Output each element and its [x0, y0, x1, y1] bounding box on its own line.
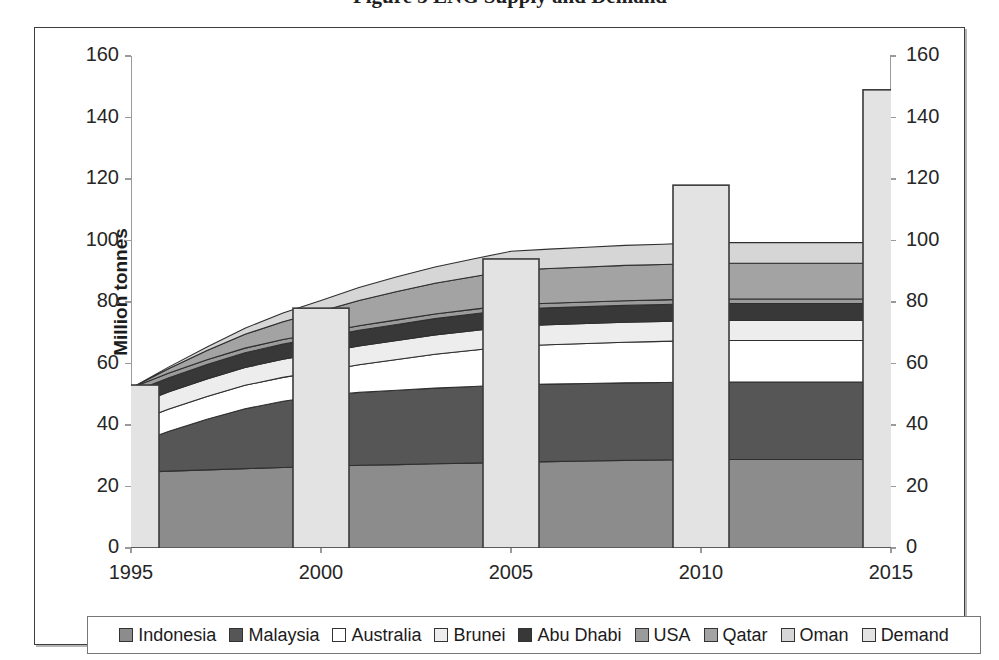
y-tick-label-right-100: 100 — [906, 228, 939, 251]
legend-swatch-icon-indonesia — [119, 628, 133, 642]
legend-label: Abu Dhabi — [537, 626, 621, 644]
y-tick-label-left-0: 0 — [108, 535, 119, 558]
legend-label: Qatar — [723, 626, 768, 644]
plot-area: Million tonnes 020406080100120140160 020… — [131, 56, 891, 548]
legend-label: Demand — [881, 626, 949, 644]
y-tick-label-left-80: 80 — [97, 289, 119, 312]
legend-label: USA — [654, 626, 691, 644]
legend-swatch-icon-abu-dhabi — [518, 628, 532, 642]
x-tick-label-2000: 2000 — [299, 561, 344, 584]
y-tick-label-left-60: 60 — [97, 351, 119, 374]
y-tick-label-right-120: 120 — [906, 166, 939, 189]
legend-label: Brunei — [453, 626, 505, 644]
demand-bar-2010 — [673, 185, 729, 548]
legend-swatch-icon-malaysia — [229, 628, 243, 642]
legend-item-usa: USA — [635, 626, 691, 644]
legend-item-qatar: Qatar — [704, 626, 768, 644]
legend-item-oman: Oman — [781, 626, 849, 644]
legend-label: Australia — [351, 626, 421, 644]
legend-swatch-icon-oman — [781, 628, 795, 642]
y-tick-label-right-20: 20 — [906, 474, 928, 497]
y-tick-label-left-140: 140 — [86, 105, 119, 128]
y-tick-label-right-40: 40 — [906, 412, 928, 435]
x-tick-label-2010: 2010 — [679, 561, 724, 584]
demand-bar-2015 — [863, 90, 891, 548]
y-tick-label-left-100: 100 — [86, 228, 119, 251]
legend-swatch-icon-australia — [332, 628, 346, 642]
y-tick-label-left-120: 120 — [86, 166, 119, 189]
figure-title: Figure 3 LNG Supply and Demand — [190, 0, 830, 9]
y-tick-label-right-160: 160 — [906, 43, 939, 66]
chart-legend: IndonesiaMalaysiaAustraliaBruneiAbu Dhab… — [87, 616, 981, 654]
chart-figure: Figure 3 LNG Supply and Demand Million t… — [0, 0, 999, 660]
y-tick-label-right-80: 80 — [906, 289, 928, 312]
y-tick-label-right-140: 140 — [906, 105, 939, 128]
y-tick-label-right-60: 60 — [906, 351, 928, 374]
demand-bar-2000 — [293, 308, 349, 548]
legend-item-australia: Australia — [332, 626, 421, 644]
x-tick-label-2015: 2015 — [869, 561, 914, 584]
legend-swatch-icon-qatar — [704, 628, 718, 642]
legend-item-brunei: Brunei — [434, 626, 505, 644]
x-tick-label-1995: 1995 — [109, 561, 154, 584]
legend-swatch-icon-demand — [862, 628, 876, 642]
legend-label: Oman — [800, 626, 849, 644]
legend-item-malaysia: Malaysia — [229, 626, 319, 644]
legend-swatch-icon-brunei — [434, 628, 448, 642]
x-tick-label-2005: 2005 — [489, 561, 534, 584]
y-tick-label-left-40: 40 — [97, 412, 119, 435]
legend-item-indonesia: Indonesia — [119, 626, 216, 644]
figure-title-strip: Figure 3 LNG Supply and Demand — [0, 0, 999, 20]
y-tick-label-left-160: 160 — [86, 43, 119, 66]
chart-frame: Million tonnes 020406080100120140160 020… — [34, 27, 965, 645]
legend-item-abu-dhabi: Abu Dhabi — [518, 626, 621, 644]
legend-swatch-icon-usa — [635, 628, 649, 642]
legend-label: Indonesia — [138, 626, 216, 644]
y-tick-label-right-0: 0 — [906, 535, 917, 558]
legend-label: Malaysia — [248, 626, 319, 644]
demand-bar-1995 — [131, 385, 159, 548]
chart-canvas — [131, 56, 891, 548]
legend-item-demand: Demand — [862, 626, 949, 644]
demand-bar-2005 — [483, 259, 539, 548]
y-tick-label-left-20: 20 — [97, 474, 119, 497]
